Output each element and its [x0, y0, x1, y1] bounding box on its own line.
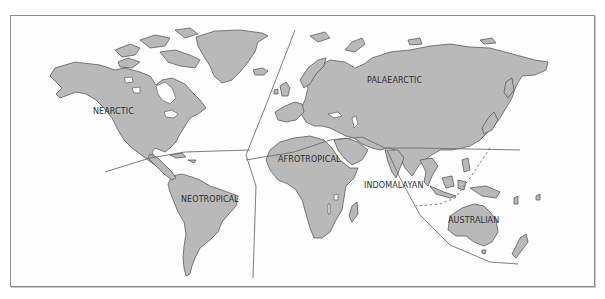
british-isles — [274, 82, 290, 96]
arctic-archipelago — [115, 28, 200, 68]
indian-subcontinent — [385, 150, 404, 178]
realm-label-nearctic: NEARCTIC — [93, 108, 134, 116]
pacific-islands — [514, 194, 540, 204]
realm-label-neotropical: NEOTROPICAL — [181, 196, 239, 204]
boundary-nearctic-neotropical — [105, 150, 250, 172]
iceland-landmass — [253, 68, 268, 75]
new-guinea — [470, 186, 500, 198]
realm-label-indomalayan: INDOMALAYAN — [364, 182, 424, 190]
madagascar — [349, 202, 358, 222]
south-america-landmass — [168, 174, 238, 276]
tasmania — [482, 250, 486, 254]
australia-landmass — [448, 204, 498, 246]
realm-label-palaearctic: PALAEARCTIC — [367, 77, 422, 85]
new-zealand — [512, 234, 528, 258]
realm-label-afrotropical: AFROTROPICAL — [278, 156, 341, 164]
world-map — [0, 0, 605, 299]
western-europe-landmass — [275, 102, 304, 122]
caribbean-islands — [170, 153, 196, 163]
realm-label-australian: AUSTRALIAN — [448, 217, 499, 225]
